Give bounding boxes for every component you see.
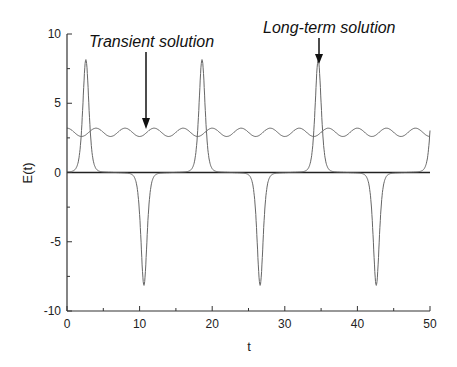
y-tick-label: 0 <box>54 166 61 180</box>
annotations: Transient solution Long-term solution <box>89 19 396 129</box>
annotation-longterm-label: Long-term solution <box>263 19 396 36</box>
chart: 01020304050 -10-50510 t E(t) Transient s… <box>0 0 457 367</box>
y-ticks: -10-50510 <box>44 27 72 318</box>
transient-solution-line <box>67 128 429 136</box>
y-tick-label: 5 <box>54 96 61 110</box>
x-tick-label: 30 <box>278 317 292 331</box>
x-tick-label: 40 <box>351 317 365 331</box>
x-axis-label: t <box>247 339 251 354</box>
x-tick-label: 20 <box>206 317 220 331</box>
x-ticks: 01020304050 <box>64 306 437 331</box>
annotation-transient-label: Transient solution <box>89 33 214 50</box>
x-tick-label: 10 <box>133 317 147 331</box>
y-tick-label: -5 <box>50 235 61 249</box>
y-axis-label: E(t) <box>20 163 35 184</box>
plot-area <box>67 60 430 286</box>
x-tick-label: 50 <box>423 317 437 331</box>
y-tick-label: 10 <box>48 27 62 41</box>
arrowhead-icon <box>315 54 323 64</box>
axes: 01020304050 -10-50510 t E(t) <box>20 27 437 354</box>
x-tick-label: 0 <box>64 317 71 331</box>
arrowhead-icon <box>142 118 150 129</box>
y-tick-label: -10 <box>44 304 62 318</box>
